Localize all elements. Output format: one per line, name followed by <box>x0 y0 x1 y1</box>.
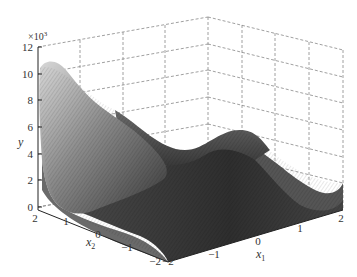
z-tick: 6 <box>28 121 34 133</box>
x1-tick: 2 <box>338 212 344 224</box>
x1-tick: −2 <box>162 255 174 267</box>
surface-plot: 0 2 4 6 8 10 12 ×103 y 2 1 0 −1 −2 x2 −2… <box>0 0 357 277</box>
z-tick: 8 <box>28 94 34 106</box>
z-tick-labels: 0 2 4 6 8 10 12 <box>22 41 34 213</box>
z-tick: 12 <box>22 41 33 53</box>
x2-tick: −1 <box>121 241 133 253</box>
x1-tick: 0 <box>255 235 261 247</box>
x2-tick: 2 <box>32 212 38 224</box>
x2-tick: 0 <box>95 228 101 240</box>
x1-axis-label: x1 <box>255 247 265 263</box>
x1-tick: 1 <box>297 222 303 234</box>
z-tick: 4 <box>28 148 34 160</box>
x1-tick: −1 <box>208 248 220 260</box>
z-axis-label: y <box>17 135 24 149</box>
z-multiplier: ×103 <box>28 30 48 42</box>
x2-tick: 1 <box>63 215 69 227</box>
z-tick: 10 <box>22 68 34 80</box>
x2-axis-label: x2 <box>85 235 95 251</box>
z-tick: 2 <box>28 174 34 186</box>
x2-tick: −2 <box>149 255 161 267</box>
